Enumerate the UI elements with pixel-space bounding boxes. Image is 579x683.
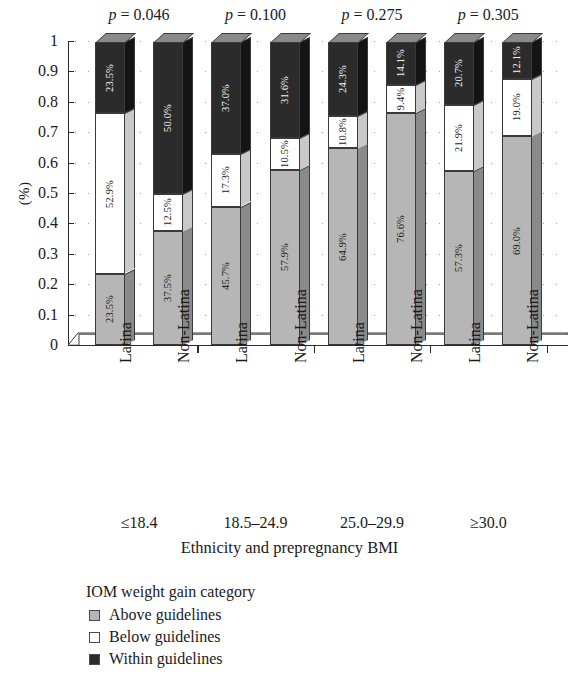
y-axis-ticks: 10.90.80.70.60.50.40.30.20.10 [6,0,58,683]
bar-segment-value-label: 9.4% [396,88,407,111]
bar-segment-below[interactable]: 9.4% [386,85,416,113]
bar-segment-value-label: 31.6% [279,76,290,104]
bar-segment-side [241,149,251,206]
y-axis-tick-label: 0.8 [12,94,58,110]
bar-segment-within[interactable]: 14.1% [386,42,416,85]
bar-segment-side [358,111,368,149]
bar-segment-value-label: 24.3% [338,65,349,93]
legend-title: IOM weight gain category [86,583,255,601]
gridline [69,284,568,285]
x-axis-category-label: Non-Latina [524,289,542,363]
y-axis-tick-label: 1 [12,33,58,49]
y-axis-tick-label: 0.6 [12,155,58,171]
gridline [69,193,568,194]
stacked-bar-chart: p = 0.046p = 0.100p = 0.275p = 0.305 (%)… [0,0,579,683]
bar-segment-value-label: 10.5% [279,140,290,168]
bmi-group-label: ≥30.0 [428,514,548,532]
bar-segment-within[interactable]: 24.3% [328,42,358,116]
bar-segment-below[interactable]: 17.3% [211,154,241,206]
y-axis-tick-label: 0.9 [12,63,58,79]
pvalue-label: p = 0.046 [79,6,199,24]
gridline [69,315,568,316]
bar-segment-value-label: 64.9% [338,233,349,261]
bar-segment-side [183,189,193,232]
bar-segment-value-label: 57.9% [279,243,290,271]
pvalue-label: p = 0.275 [312,6,432,24]
bar-segment-side [416,80,426,113]
bar-segment-value-label: 17.3% [221,166,232,194]
bar-column[interactable]: 23.5%52.9%23.5% [95,42,125,345]
gridline [69,223,568,224]
legend: IOM weight gain category Above guideline… [86,583,255,670]
bar-segment-side [532,37,542,79]
gridline [69,102,568,103]
y-axis-tick-label: 0.1 [12,307,58,323]
bar-segment-value-label: 23.5% [105,64,116,92]
bar-segment-side [300,37,310,138]
bar-segment-below[interactable]: 10.8% [328,116,358,149]
bar-segment-above[interactable]: 64.9% [328,148,358,345]
x-axis-category-label: Latina [117,322,135,363]
x-axis-tick-mark [430,346,431,353]
bar-segment-side [532,74,542,136]
gridline [69,132,568,133]
bar-column[interactable]: 57.3%21.9%20.7% [444,42,474,345]
bar-segment-value-label: 37.0% [221,84,232,112]
bar-segment-side [125,37,135,113]
bar-column[interactable]: 45.7%17.3%37.0% [211,42,241,345]
bar-segment-within[interactable]: 31.6% [270,42,300,138]
x-axis-category-label: Non-Latina [408,289,426,363]
bar-segment-value-label: 21.9% [454,124,465,152]
bar-segment-value-label: 12.1% [512,46,523,74]
bar-segment-value-label: 23.5% [105,295,116,323]
bar-column[interactable]: 64.9%10.8%24.3% [328,42,358,345]
bar-segment-below[interactable]: 10.5% [270,138,300,170]
gridline [69,254,568,255]
gridline [69,163,568,164]
legend-items: Above guidelinesBelow guidelinesWithin g… [86,604,255,670]
bar-segment-value-label: 45.7% [221,262,232,290]
bar-segment-side [474,100,484,171]
bar-segment-value-label: 57.3% [454,244,465,272]
x-axis-category-label: Non-Latina [175,289,193,363]
bmi-group-label: 25.0–29.9 [312,514,432,532]
bar-segment-within[interactable]: 20.7% [444,42,474,105]
bar-segment-side [416,37,426,85]
x-axis-category-label: Latina [350,322,368,363]
legend-label: Above guidelines [109,607,221,623]
x-axis-category-label: Latina [233,322,251,363]
bar-segment-side [300,133,310,170]
legend-label: Below guidelines [109,629,221,645]
bar-segment-within[interactable]: 37.0% [211,42,241,154]
bar-segment-below[interactable]: 12.5% [153,194,183,232]
bar-segment-side [183,37,193,193]
bar-segment-below[interactable]: 21.9% [444,105,474,171]
x-axis-line [68,345,568,346]
bar-segment-within[interactable]: 23.5% [95,42,125,113]
y-axis-tick-label: 0 [12,337,58,353]
y-axis-tick-label: 0.2 [12,276,58,292]
bar-segment-below[interactable]: 52.9% [95,113,125,273]
gridline [69,41,568,42]
bmi-group-label: ≤18.4 [79,514,199,532]
bar-segment-side [474,37,484,105]
bar-segment-value-label: 76.6% [396,215,407,243]
legend-swatch [89,632,100,643]
legend-item[interactable]: Within guidelines [86,648,255,670]
bar-segment-above[interactable]: 57.3% [444,171,474,345]
bar-segment-value-label: 69.0% [512,227,523,255]
legend-item[interactable]: Above guidelines [86,604,255,626]
x-axis-title: Ethnicity and prepregnancy BMI [0,538,579,558]
bar-segment-value-label: 12.5% [163,198,174,226]
bar-segment-value-label: 20.7% [454,59,465,87]
y-axis-tick-label: 0.4 [12,215,58,231]
bar-segment-side [358,37,368,116]
bar-segment-within[interactable]: 50.0% [153,42,183,194]
bar-segment-within[interactable]: 12.1% [502,42,532,79]
y-axis-tick-label: 0.7 [12,124,58,140]
bar-segment-side [241,37,251,154]
bar-segment-value-label: 50.0% [163,104,174,132]
x-axis-category-label: Non-Latina [292,289,310,363]
bar-segment-below[interactable]: 19.0% [502,79,532,137]
legend-item[interactable]: Below guidelines [86,626,255,648]
